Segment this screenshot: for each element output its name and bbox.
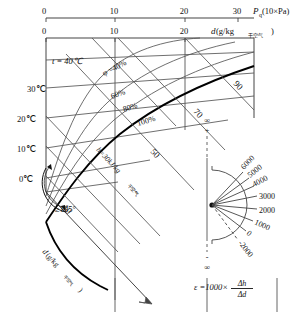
isotherm-label-0: 0℃ — [19, 174, 33, 184]
formula-numerator: Δh — [237, 279, 247, 288]
isotherm-label-20: 20℃ — [17, 114, 36, 124]
isotherm-label-10: 10℃ — [17, 144, 36, 154]
d-tick-20: 20 — [180, 26, 189, 36]
d-axis-label-unit: (g/kg — [216, 26, 235, 36]
enthalpy-label-50: 50 — [149, 147, 163, 161]
protractor-label-3000: 3000 — [259, 192, 275, 201]
humidity-labels: φ =40% 60% 80% 100% — [101, 58, 157, 128]
isotherm-label-40: t = 40℃ — [52, 56, 84, 66]
humidity-label-80: 80% — [122, 100, 139, 113]
pq-axis-label: P q (10×Pa) — [252, 6, 290, 18]
enthalpy-label-90: 90 — [232, 79, 246, 93]
d-axis-label-sub: 干空气 — [248, 32, 263, 39]
formula-lhs: ε =1000× — [194, 282, 228, 292]
d-axis-label-top: d (g/kg 干空气 ) — [211, 26, 274, 39]
protractor-label-2000: 2000 — [259, 206, 275, 215]
chart-canvas: 0 10 20 30 P q (10×Pa) 0 10 20 d (g/kg 干… — [0, 0, 290, 320]
d-axis-oblique-unit: (g/kg — [44, 251, 62, 269]
protractor-top-sign: + — [205, 126, 210, 135]
d-tick-10: 10 — [110, 26, 119, 36]
protractor-ray-4000 — [212, 186, 254, 205]
pq-axis-label-unit: (10×Pa) — [262, 6, 290, 16]
d-axis: 0 10 20 d (g/kg 干空气 ) — [42, 26, 274, 42]
protractor-label-minus2000: -2000 — [236, 239, 255, 259]
isotherm-label-30: 30℃ — [27, 84, 46, 94]
d-axis-oblique-sub: 干空气 — [62, 274, 76, 288]
angle-annotation-label: ≥135° — [55, 204, 76, 214]
pq-tick-10: 10 — [110, 6, 119, 16]
pq-tick-0: 0 — [42, 6, 46, 16]
isotherm-30 — [46, 73, 254, 88]
protractor-bottom-infinity: ∞ — [204, 263, 210, 272]
formula-denominator: Δd — [237, 290, 248, 299]
psychrometric-chart-figure: 0 10 20 30 P q (10×Pa) 0 10 20 d (g/kg 干… — [0, 0, 290, 320]
d-axis-label-close: ) — [271, 26, 274, 36]
protractor-label-0: 0 — [245, 229, 254, 238]
d-axis-oblique-close: ) — [77, 286, 86, 294]
isenthalp-lines — [46, 38, 254, 304]
pq-tick-30: 30 — [233, 6, 242, 16]
protractor-ray-2000 — [212, 205, 257, 209]
humidity-curves — [46, 38, 254, 290]
pq-tick-20: 20 — [180, 6, 189, 16]
protractor-top-infinity: ∞ — [204, 116, 210, 125]
isenthalp-30 — [46, 116, 160, 236]
enthalpy-label-main: h=30kJ/kg — [95, 145, 124, 175]
humidity-label-100: 100% — [136, 114, 157, 128]
humidity-label-60: 60% — [109, 87, 126, 101]
protractor-label-1000: 1000 — [253, 218, 271, 233]
d-tick-0: 0 — [42, 26, 46, 36]
protractor-ray-0 — [212, 205, 246, 231]
epsilon-formula: ε =1000× Δh Δd — [194, 279, 253, 299]
top-pressure-axis: 0 10 20 30 P q (10×Pa) — [42, 6, 290, 22]
enthalpy-label-main-sub: 干空气 — [125, 182, 140, 198]
protractor-bottom-sign: - — [206, 253, 209, 262]
pq-axis-label-main: P — [252, 6, 259, 16]
isenthalp-aux-2 — [92, 38, 176, 126]
phi-100-curve — [46, 66, 254, 222]
humidity-label-40: φ =40% — [101, 58, 128, 78]
